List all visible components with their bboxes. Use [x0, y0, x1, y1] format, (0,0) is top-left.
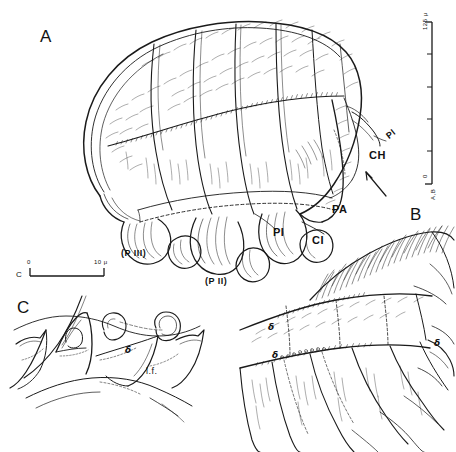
- label-delta-b-lower: δ: [272, 350, 279, 360]
- label-lf: l.f.: [146, 366, 158, 376]
- label-p2: (P II): [205, 276, 227, 286]
- scale-ab-min-label: 0: [422, 174, 428, 178]
- scale-c-panel-label: C: [16, 270, 22, 279]
- scale-c-min-label: 0: [27, 259, 31, 265]
- panel-label-b: B: [410, 205, 422, 225]
- label-pa: PA: [332, 203, 347, 215]
- line-drawing-canvas: [0, 0, 456, 452]
- scale-ab-panel-label: A,B: [430, 189, 436, 200]
- figure-plate: A B C CH PA PI CI Pl (P III) (P II) δ l.…: [0, 0, 456, 452]
- label-p3: (P III): [121, 248, 146, 258]
- panel-label-c: C: [17, 298, 30, 318]
- label-delta-b-right: δ: [434, 338, 441, 348]
- panel-a-drawing: [84, 20, 386, 282]
- scale-c-max-label: 10 μ: [94, 259, 108, 265]
- scale-bar-c-graphic: [30, 268, 104, 276]
- label-ch: CH: [369, 149, 386, 161]
- scale-ab-max-label: 125 μ: [422, 12, 428, 30]
- label-pi: PI: [273, 226, 284, 238]
- scale-bar-ab-graphic: [425, 22, 432, 184]
- panel-label-a: A: [40, 27, 52, 47]
- label-delta-b-upper: δ: [268, 322, 275, 332]
- panel-c-drawing: [10, 296, 204, 422]
- label-delta-c: δ: [125, 345, 132, 355]
- label-ci: CI: [312, 234, 324, 246]
